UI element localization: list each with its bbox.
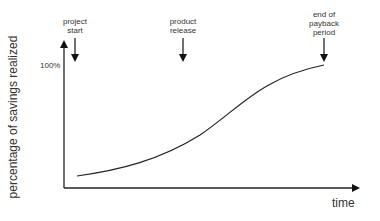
savings-curve (77, 65, 324, 176)
product-release-line1: product (163, 17, 203, 26)
end-payback-line3: period (302, 28, 346, 37)
y-axis-label: percentage of savings realized (6, 32, 20, 202)
end-payback-label: end of payback period (302, 10, 346, 37)
project-start-line1: project (55, 17, 95, 26)
project-start-label: project start (55, 17, 95, 35)
product-release-line2: release (163, 26, 203, 35)
product-release-label: product release (163, 17, 203, 35)
x-axis-label: time (332, 196, 355, 210)
project-start-line2: start (55, 26, 95, 35)
end-payback-line1: end of (302, 10, 346, 19)
end-payback-line2: payback (302, 19, 346, 28)
y-tick-100: 100% (40, 61, 60, 70)
